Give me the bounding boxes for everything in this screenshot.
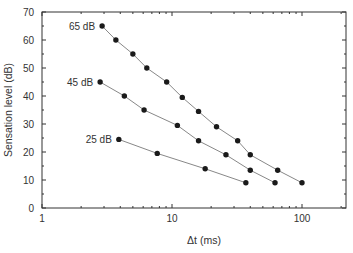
data-point bbox=[243, 180, 248, 185]
data-point bbox=[99, 23, 104, 28]
y-axis-title: Sensation level (dB) bbox=[2, 63, 14, 157]
data-point bbox=[223, 152, 228, 157]
data-point bbox=[275, 168, 280, 173]
data-point bbox=[180, 95, 185, 100]
data-point bbox=[144, 65, 149, 70]
x-tick-label: 100 bbox=[294, 213, 311, 224]
data-point bbox=[235, 138, 240, 143]
data-point bbox=[248, 168, 253, 173]
data-point bbox=[113, 37, 118, 42]
data-point bbox=[202, 166, 207, 171]
y-tick-label: 40 bbox=[23, 91, 35, 102]
series-label: 25 dB bbox=[86, 134, 112, 145]
x-tick-label: 1 bbox=[39, 213, 45, 224]
y-tick-label: 10 bbox=[23, 175, 35, 186]
axis-labels: 010203040506070110100Δt (ms)Sensation le… bbox=[2, 7, 311, 247]
series-65-db: 65 dB bbox=[69, 21, 305, 186]
data-point bbox=[97, 79, 102, 84]
chart: 65 dB45 dB25 dB 010203040506070110100Δt … bbox=[0, 0, 353, 253]
data-point bbox=[175, 123, 180, 128]
y-tick-label: 50 bbox=[23, 63, 35, 74]
data-point bbox=[196, 109, 201, 114]
y-tick-label: 60 bbox=[23, 35, 35, 46]
data-point bbox=[155, 151, 160, 156]
data-series: 65 dB45 dB25 dB bbox=[67, 21, 305, 186]
y-tick-label: 30 bbox=[23, 119, 35, 130]
data-point bbox=[299, 180, 304, 185]
x-tick-label: 10 bbox=[166, 213, 178, 224]
series-45-db: 45 dB bbox=[67, 77, 278, 186]
y-tick-label: 0 bbox=[28, 203, 34, 214]
series-25-db: 25 dB bbox=[86, 134, 249, 186]
data-point bbox=[116, 137, 121, 142]
data-point bbox=[122, 93, 127, 98]
plot-frame bbox=[42, 12, 346, 208]
data-point bbox=[141, 107, 146, 112]
data-point bbox=[196, 138, 201, 143]
plot-axes bbox=[42, 12, 346, 208]
y-tick-label: 20 bbox=[23, 147, 35, 158]
data-point bbox=[164, 79, 169, 84]
x-axis-title: Δt (ms) bbox=[187, 234, 221, 246]
data-point bbox=[272, 180, 277, 185]
data-point bbox=[214, 124, 219, 129]
y-tick-label: 70 bbox=[23, 7, 35, 18]
data-point bbox=[248, 152, 253, 157]
data-point bbox=[130, 51, 135, 56]
series-label: 45 dB bbox=[67, 77, 93, 88]
series-label: 65 dB bbox=[69, 21, 95, 32]
